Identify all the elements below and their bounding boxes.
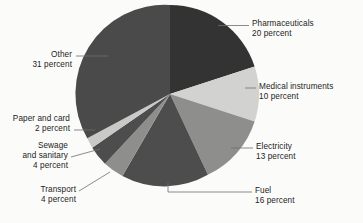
pie-label-other: Other 31 percent [0,50,72,70]
pie-label-pharmaceuticals-name: Pharmaceuticals [252,19,314,29]
pie-slices [75,5,259,187]
pie-label-transport-value: 4 percent [0,195,76,205]
pie-label-fuel-value: 16 percent [255,196,295,206]
pie-label-electricity: Electricity 13 percent [256,142,296,162]
pie-label-electricity-name: Electricity [256,142,296,152]
pie-label-paper-and-card-value: 2 percent [0,124,70,134]
pie-label-fuel-name: Fuel [255,186,295,196]
pie-label-sewage-and-sanitary-name-line2: and sanitary [0,151,68,161]
pie-label-paper-and-card: Paper and card 2 percent [0,114,70,134]
pie-label-other-name: Other [0,50,72,60]
pie-label-sewage-and-sanitary: Sewage and sanitary 4 percent [0,141,68,172]
pie-label-transport: Transport 4 percent [0,185,76,205]
pie-label-pharmaceuticals-value: 20 percent [252,29,314,39]
pie-label-pharmaceuticals: Pharmaceuticals 20 percent [252,19,314,39]
pie-label-other-value: 31 percent [0,60,72,70]
pie-chart-figure: Pharmaceuticals 20 percent Medical instr… [0,0,363,223]
pie-label-medical-instruments-name: Medical instruments [259,82,333,92]
pie-label-paper-and-card-name: Paper and card [0,114,70,124]
pie-label-medical-instruments-value: 10 percent [259,92,333,102]
leader-line-transport [79,172,110,191]
pie-label-medical-instruments: Medical instruments 10 percent [259,82,333,102]
pie-label-fuel: Fuel 16 percent [255,186,295,206]
pie-label-sewage-and-sanitary-value: 4 percent [0,161,68,171]
pie-label-sewage-and-sanitary-name-line1: Sewage [0,141,68,151]
leader-line-sewage-and-sanitary [71,149,100,157]
pie-label-transport-name: Transport [0,185,76,195]
pie-label-electricity-value: 13 percent [256,152,296,162]
